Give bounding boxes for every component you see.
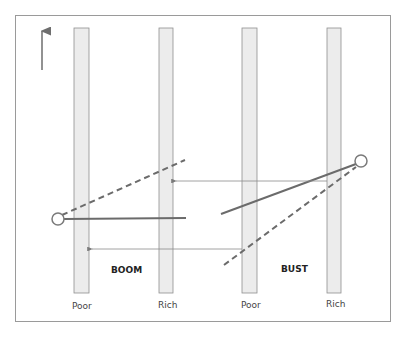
column-label-rich-1: Rich [158, 300, 177, 310]
boom-solid-line [64, 218, 186, 219]
boom-bust-diagram: BOOM BUST Poor Rich Poor Rich [0, 0, 404, 340]
bust-pivot-circle [355, 155, 367, 167]
column-label-rich-2: Rich [326, 299, 345, 309]
column-label-poor-2: Poor [241, 300, 261, 310]
bar-rich-boom [159, 28, 173, 293]
boom-pivot-circle [52, 213, 64, 225]
bar-poor-boom [74, 28, 89, 293]
boom-label: BOOM [111, 265, 142, 275]
bar-poor-bust [242, 28, 257, 293]
bust-label: BUST [281, 264, 309, 274]
column-label-poor-1: Poor [72, 301, 92, 311]
bar-rich-bust [327, 28, 341, 293]
